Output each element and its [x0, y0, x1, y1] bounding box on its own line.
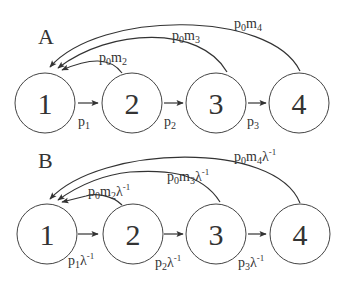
return-label-4: p0m4 [234, 16, 262, 33]
node-b-3: 3 [186, 204, 246, 264]
panel-label-b: B [38, 148, 53, 173]
svg-text:4: 4 [293, 218, 308, 251]
svg-text:4: 4 [292, 87, 307, 120]
svg-text:3: 3 [209, 87, 224, 120]
forward-label-1: p1 [78, 114, 90, 131]
node-a-2: 2 [102, 73, 162, 133]
node-b-4: 4 [270, 204, 330, 264]
return-label-4-b: p0m4λ-1 [234, 147, 276, 166]
forward-label-1-b: p1λ-1 [68, 251, 94, 270]
panel-b: B p0m2λ-1 p0m3λ-1 p0m4λ-1 p1λ-1 p2λ-1 p3… [17, 147, 330, 272]
svg-text:2: 2 [125, 87, 140, 120]
panel-label-a: A [38, 24, 54, 49]
forward-label-2: p2 [164, 114, 176, 131]
return-label-2-b: p0m2λ-1 [88, 182, 130, 201]
return-label-3-b: p0m3λ-1 [167, 167, 209, 186]
node-a-4: 4 [269, 73, 329, 133]
node-a-3: 3 [186, 73, 246, 133]
forward-label-3: p3 [247, 114, 259, 131]
panel-a: A p0m2 p0m3 p0m4 p1 p2 p3 1 2 3 [15, 16, 329, 133]
node-a-1: 1 [15, 73, 75, 133]
node-b-1: 1 [17, 204, 77, 264]
svg-text:1: 1 [38, 87, 53, 120]
return-edge-3-to-1 [58, 37, 227, 72]
svg-text:1: 1 [40, 218, 55, 251]
diagram-canvas: A p0m2 p0m3 p0m4 p1 p2 p3 1 2 3 [0, 0, 342, 283]
forward-label-3-b: p3λ-1 [238, 253, 264, 272]
svg-text:2: 2 [126, 218, 141, 251]
forward-label-2-b: p2λ-1 [155, 253, 181, 272]
node-b-2: 2 [103, 204, 163, 264]
return-label-2: p0m2 [99, 50, 127, 67]
return-label-3: p0m3 [172, 28, 200, 45]
svg-text:3: 3 [209, 218, 224, 251]
